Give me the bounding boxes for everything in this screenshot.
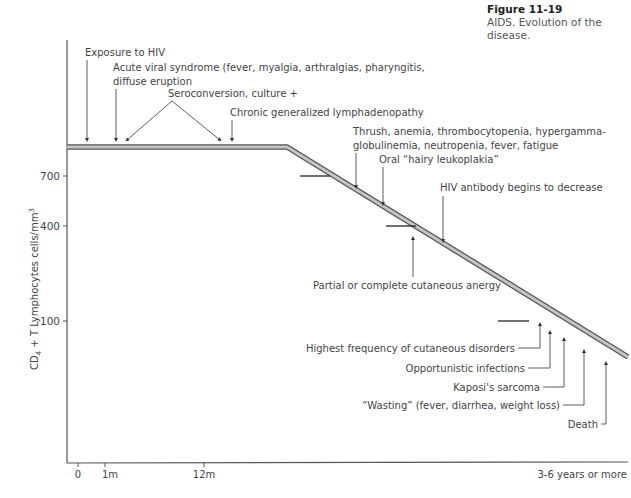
figure-caption: Figure 11-19 AIDS. Evolution of the dise… [487,3,631,42]
x-tick-label-12m: 12m [193,469,215,480]
y-tick-label-700: 700 [40,170,60,182]
label-acute-2: diffuse eruption [113,76,192,87]
cd4-curve [67,147,628,357]
label-thrush-2: globulinemia, neutropenia, fever, fatigu… [353,140,558,151]
arrow-seroconversion-left [127,101,172,140]
y-tick-label-400: 400 [40,220,60,232]
label-antibody: HIV antibody begins to decrease [440,182,603,193]
figure-number: Figure 11-19 [487,3,631,16]
label-leukoplakia: Oral “hairy leukoplakia” [379,154,499,165]
label-death: Death [568,419,598,430]
mid-annotations: Thrush, anemia, thrombocytopenia, hyperg… [313,126,606,291]
x-end-label: 3-6 years or more [537,469,627,480]
aids-evolution-figure: Figure 11-19 AIDS. Evolution of the dise… [0,0,631,498]
x-tick-label-0: 0 [75,469,81,480]
label-opportunistic: Opportunistic infections [406,363,525,374]
threshold-markers [300,176,529,321]
chart-canvas: 700 400 100 CD4 + T Lymphocytes cells/mm… [0,0,631,498]
label-seroconversion: Seroconversion, culture + [168,88,298,99]
label-exposure: Exposure to HIV [85,47,165,58]
figure-title: AIDS. Evolution of the disease. [487,16,631,42]
y-axis-label: CD4 + T Lymphocytes cells/mm3 [28,208,43,370]
x-tick-label-1m: 1m [102,469,118,480]
label-lymphadenopathy: Chronic generalized lymphadenopathy [230,107,424,118]
x-axis [67,462,628,463]
arrow-kaposi [543,339,564,387]
arrow-death [601,363,606,424]
late-annotations: Highest frequency of cutaneous disorders… [306,324,606,430]
arrow-cutaneous [518,324,540,348]
label-acute-1: Acute viral syndrome (fever, myalgia, ar… [113,62,425,73]
label-wasting: “Wasting” (fever, diarrhea, weight loss) [362,400,560,411]
arrow-opportunistic [528,332,550,368]
arrow-seroconversion-right [172,101,220,140]
label-cutaneous: Highest frequency of cutaneous disorders [306,343,515,354]
label-anergy: Partial or complete cutaneous anergy [313,280,501,291]
label-kaposi: Kaposi's sarcoma [453,382,540,393]
label-thrush-1: Thrush, anemia, thrombocytopenia, hyperg… [352,126,606,137]
y-tick-label-100: 100 [40,315,60,327]
arrow-wasting [563,351,584,405]
axes: 700 400 100 CD4 + T Lymphocytes cells/mm… [28,40,628,480]
